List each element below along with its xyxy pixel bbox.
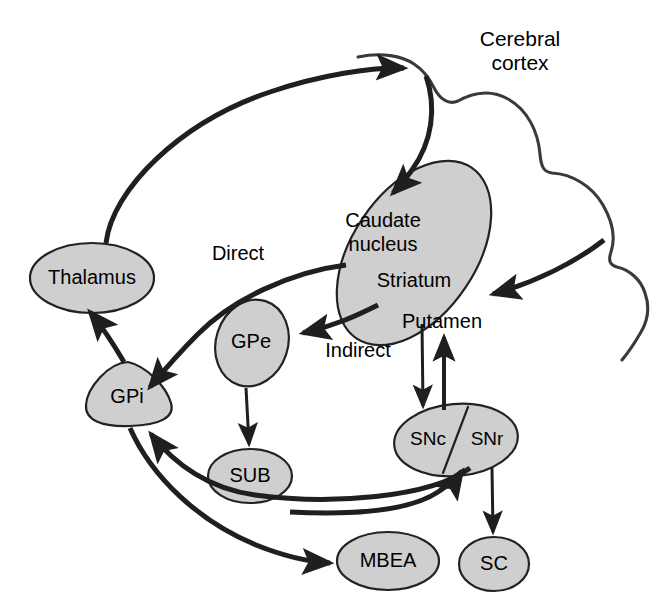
gpi-shape[interactable] [86,362,172,426]
diagram-canvas: Cerebral cortex Caudate nucleus Striatum… [0,0,668,606]
indirect-pathway-label: Indirect [325,339,391,361]
mbea-shape[interactable] [337,532,439,590]
mbea-node[interactable] [337,532,439,590]
connection-thalamus-to-cortex[interactable] [106,68,404,243]
cortex-label-line1: Cerebral [480,27,561,50]
connection-putamen-to-snc[interactable] [422,324,423,406]
connection-snr-to-sc[interactable] [492,468,493,532]
basal-ganglia-diagram: Cerebral cortex Caudate nucleus Striatum… [0,0,668,606]
thalamus-shape[interactable] [30,243,154,313]
gpi-node[interactable] [86,362,172,426]
direct-pathway-label: Direct [212,242,265,264]
thalamus-node[interactable] [30,243,154,313]
sc-node[interactable] [459,537,529,591]
sc-shape[interactable] [459,537,529,591]
connection-mbea-to-snr[interactable] [290,471,462,513]
connection-gpe-to-sub[interactable] [246,388,249,444]
gpe-shape[interactable] [204,290,300,396]
connection-gpi-to-thalamus[interactable] [90,312,124,362]
cortex-label-line2: cortex [491,51,549,74]
snc-snr-node[interactable] [391,399,521,482]
gpe-node[interactable] [204,290,300,396]
